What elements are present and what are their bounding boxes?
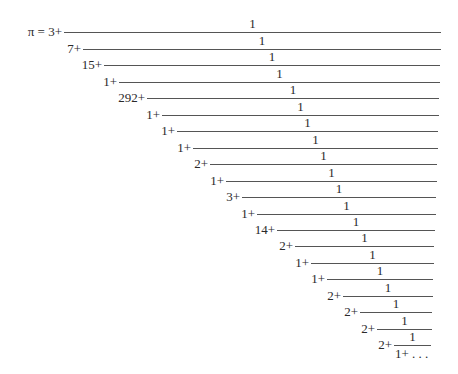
fraction-bar <box>83 49 441 50</box>
numerator-one: 1 <box>400 314 410 328</box>
numerator-one: 1 <box>383 281 393 295</box>
fraction-bar <box>226 181 437 182</box>
partial-denominator: 1+ <box>161 124 175 138</box>
pi-equals-label: π = 3+ <box>28 25 62 39</box>
numerator-one: 1 <box>408 330 418 344</box>
partial-denominator: 292+ <box>118 91 145 105</box>
partial-denominator: 1+ <box>295 256 309 270</box>
fraction-bar <box>64 32 441 33</box>
partial-denominator: 2+ <box>344 305 358 319</box>
numerator-one: 1 <box>342 199 352 213</box>
numerator-one: 1 <box>319 149 329 163</box>
numerator-one: 1 <box>257 34 267 48</box>
numerator-one: 1 <box>391 297 401 311</box>
fraction-bar <box>177 131 438 132</box>
fraction-bar <box>119 82 440 83</box>
numerator-one: 1 <box>311 133 321 147</box>
fraction-bar <box>162 115 439 116</box>
partial-denominator: 3+ <box>226 190 240 204</box>
fraction-bar <box>343 296 433 297</box>
numerator-one: 1 <box>368 248 378 262</box>
partial-denominator: 1+ <box>241 207 255 221</box>
fraction-bar <box>257 214 436 215</box>
numerator-one: 1 <box>351 215 361 229</box>
fraction-bar <box>295 246 434 247</box>
partial-denominator: 1+ <box>311 272 325 286</box>
numerator-one: 1 <box>303 116 313 130</box>
partial-denominator: 2+ <box>378 338 392 352</box>
partial-denominator: 2+ <box>279 239 293 253</box>
fraction-bar <box>360 312 432 313</box>
fraction-bar <box>242 197 436 198</box>
numerator-one: 1 <box>375 264 385 278</box>
numerator-one: 1 <box>248 17 258 31</box>
fraction-bar <box>210 164 437 165</box>
partial-denominator: 14+ <box>255 223 275 237</box>
numerator-one: 1 <box>267 50 277 64</box>
partial-denominator: 15+ <box>82 58 102 72</box>
continued-fraction-pi: π = 3+17+115+11+1292+11+11+11+12+11+13+1… <box>0 0 458 374</box>
numerator-one: 1 <box>327 166 337 180</box>
fraction-bar <box>277 230 435 231</box>
fraction-bar <box>147 98 439 99</box>
final-denominator: 1+ . . . <box>395 347 428 361</box>
numerator-one: 1 <box>360 231 370 245</box>
partial-denominator: 1+ <box>103 75 117 89</box>
fraction-bar <box>377 329 432 330</box>
partial-denominator: 2+ <box>194 157 208 171</box>
partial-denominator: 1+ <box>146 108 160 122</box>
partial-denominator: 1+ <box>210 174 224 188</box>
numerator-one: 1 <box>334 182 344 196</box>
fraction-bar <box>327 279 433 280</box>
partial-denominator: 2+ <box>361 322 375 336</box>
numerator-one: 1 <box>296 100 306 114</box>
numerator-one: 1 <box>288 83 298 97</box>
fraction-bar <box>104 65 440 66</box>
fraction-bar <box>311 263 434 264</box>
partial-denominator: 7+ <box>67 42 81 56</box>
partial-denominator: 1+ <box>177 141 191 155</box>
partial-denominator: 2+ <box>327 289 341 303</box>
fraction-bar <box>193 148 438 149</box>
numerator-one: 1 <box>275 67 285 81</box>
